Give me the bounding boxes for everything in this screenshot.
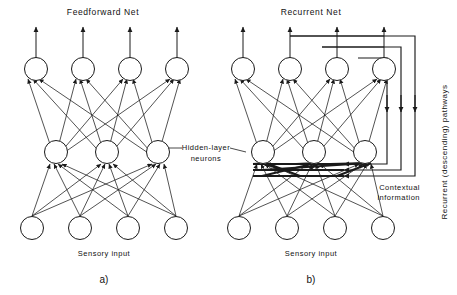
hidden-layer-label-line1: Hidden-layer — [182, 143, 231, 152]
panel-a-caption: a) — [100, 274, 109, 285]
panel-b-output-neurons — [232, 58, 396, 81]
panel-b-input-neurons — [228, 217, 395, 240]
neuron — [147, 141, 170, 164]
panel-b-output-axons — [243, 27, 384, 58]
neuron — [228, 217, 251, 240]
panel-b-input-to-hidden — [239, 164, 383, 216]
neuron — [354, 141, 377, 164]
neuron — [45, 141, 68, 164]
neural-network-diagram: Feedforward Net Recurrent Net Hidden-lay… — [0, 0, 457, 295]
panel-a-output-axons — [36, 27, 177, 58]
panel-b-title: Recurrent Net — [281, 7, 342, 17]
panel-b-caption: b) — [307, 274, 316, 285]
neuron — [324, 217, 347, 240]
neuron — [372, 217, 395, 240]
panel-b-input-label: Sensory input — [285, 249, 338, 258]
panel-a-input-label: Sensory input — [78, 249, 131, 258]
neuron — [303, 141, 326, 164]
neuron — [165, 217, 188, 240]
panel-a-title: Feedforward Net — [67, 7, 139, 17]
figure-container: Feedforward Net Recurrent Net Hidden-lay… — [0, 0, 457, 295]
neuron — [279, 58, 302, 81]
hidden-layer-label-line2: neurons — [191, 154, 222, 163]
contextual-label-line2: information — [377, 193, 420, 202]
neuron — [25, 58, 48, 81]
panel-b-hidden-neurons — [252, 141, 377, 164]
neuron — [117, 217, 140, 240]
neuron — [276, 217, 299, 240]
contextual-label-line1: Contextual — [379, 183, 420, 192]
neuron — [72, 58, 95, 81]
panel-a-output-neurons — [25, 58, 189, 81]
panel-b-contextual-connections — [253, 163, 371, 176]
panel-a-group — [21, 27, 189, 240]
neuron — [21, 217, 44, 240]
neuron — [69, 217, 92, 240]
recurrent-pathways-label: Recurrent (descending) pathways — [440, 84, 449, 219]
panel-a-input-to-hidden — [32, 164, 176, 216]
neuron — [96, 141, 119, 164]
panel-b-group — [228, 27, 416, 240]
neuron — [166, 58, 189, 81]
neuron — [119, 58, 142, 81]
neuron — [252, 141, 275, 164]
neuron — [373, 58, 396, 81]
neuron — [326, 58, 349, 81]
panel-a-hidden-neurons — [45, 141, 170, 164]
neuron — [232, 58, 255, 81]
panel-a-input-neurons — [21, 217, 188, 240]
